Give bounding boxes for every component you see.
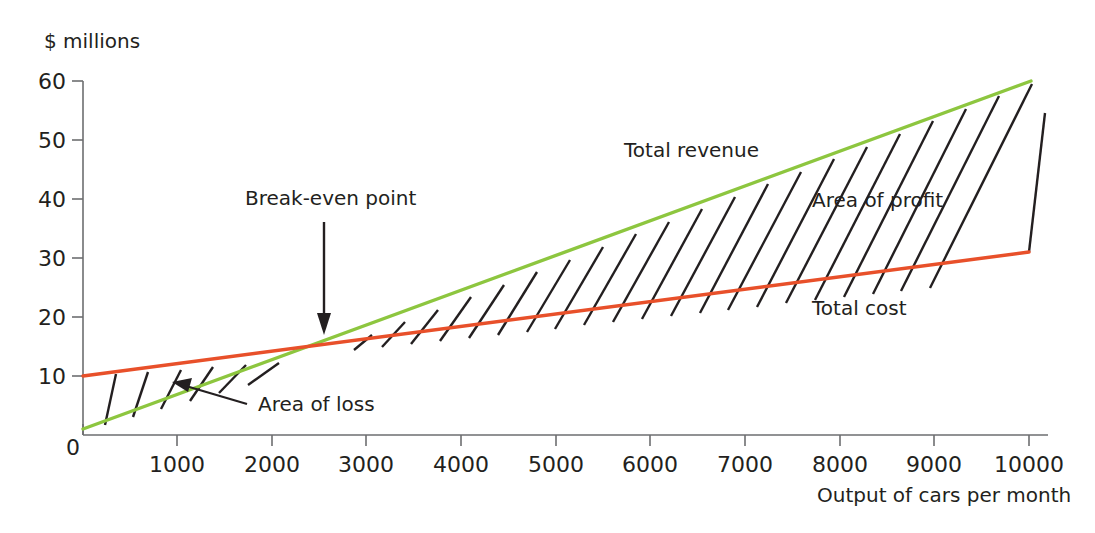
- x-axis-tick-labels: 1000 2000 3000 4000 5000 6000 7000 8000 …: [149, 452, 1064, 477]
- axes: [72, 81, 1048, 446]
- x-tick-label-4000: 4000: [433, 452, 489, 477]
- y-tick-label-20: 20: [38, 305, 66, 330]
- hatch-line: [1029, 113, 1045, 252]
- hatch-line: [469, 285, 504, 338]
- x-tick-label-1000: 1000: [149, 452, 205, 477]
- y-tick-label-60: 60: [38, 69, 66, 94]
- area-of-profit-hatching: [354, 84, 1045, 350]
- y-tick-label-40: 40: [38, 187, 66, 212]
- break-even-point-annotation: Break-even point: [245, 186, 417, 335]
- hatch-line: [161, 370, 181, 409]
- origin-label: 0: [66, 435, 80, 460]
- y-axis-title: $ millions: [44, 29, 140, 53]
- x-tick-label-6000: 6000: [622, 452, 678, 477]
- area-of-loss-hatching: [105, 363, 279, 425]
- hatch-line: [527, 260, 570, 332]
- break-even-chart: $ millions 60 50 40 30 20 10 0 1000 2000…: [0, 0, 1095, 533]
- break-even-arrow-head: [317, 313, 331, 335]
- break-even-point-label: Break-even point: [245, 186, 417, 210]
- y-axis-tick-labels: 60 50 40 30 20 10: [38, 69, 66, 389]
- y-tick-label-30: 30: [38, 246, 66, 271]
- y-tick-label-50: 50: [38, 128, 66, 153]
- hatch-line: [440, 297, 471, 341]
- total-revenue-line: [83, 81, 1031, 429]
- chart-page: $ millions 60 50 40 30 20 10 0 1000 2000…: [0, 0, 1095, 533]
- hatch-line: [584, 234, 636, 325]
- x-tick-label-10000: 10000: [994, 452, 1064, 477]
- x-tick-label-2000: 2000: [244, 452, 300, 477]
- x-tick-label-7000: 7000: [717, 452, 773, 477]
- x-tick-label-8000: 8000: [812, 452, 868, 477]
- x-axis-title: Output of cars per month: [817, 483, 1071, 507]
- x-tick-label-3000: 3000: [338, 452, 394, 477]
- hatch-line: [555, 247, 603, 329]
- total-cost-label: Total cost: [811, 296, 907, 320]
- x-tick-label-5000: 5000: [528, 452, 584, 477]
- x-tick-label-9000: 9000: [906, 452, 962, 477]
- total-revenue-label: Total revenue: [623, 138, 759, 162]
- area-of-loss-label: Area of loss: [258, 392, 375, 416]
- area-of-profit-label: Area of profit: [812, 188, 943, 212]
- y-axis-ticks: [72, 81, 83, 376]
- hatch-line: [411, 310, 438, 344]
- y-tick-label-10: 10: [38, 364, 66, 389]
